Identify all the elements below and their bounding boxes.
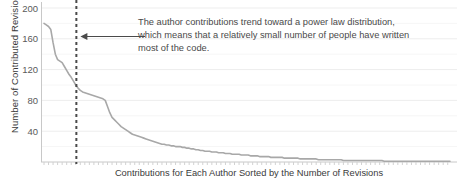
annotation-line-3: most of the code.	[138, 42, 438, 55]
annotation-line-1: The author contributions trend toward a …	[138, 16, 438, 29]
chart-container: Number of Contributed Revisions 20016012…	[0, 0, 457, 178]
y-axis-tick-label: 160	[4, 34, 38, 43]
annotation-line-2: which means that a relatively small numb…	[138, 29, 438, 42]
y-axis-tick-label: 120	[4, 65, 38, 74]
x-axis-title: Contributions for Each Author Sorted by …	[41, 168, 457, 178]
y-axis-tick-label: 80	[4, 96, 38, 105]
y-axis-tick-labels: 2001601208040	[0, 0, 38, 178]
y-axis-tick-label: 40	[4, 127, 38, 136]
annotation-text: The author contributions trend toward a …	[138, 16, 438, 56]
y-axis-tick-label: 200	[4, 4, 38, 13]
